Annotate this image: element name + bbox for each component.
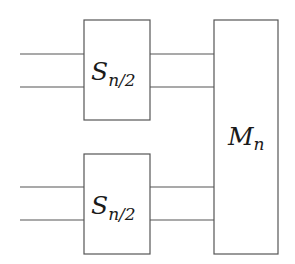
recursive-sorting-network-diagram: Sn/2 Sn/2 Mn bbox=[0, 0, 295, 264]
merger-block: Mn bbox=[214, 20, 278, 254]
sorter-block-bottom: Sn/2 bbox=[84, 154, 150, 254]
sorter-block-top: Sn/2 bbox=[84, 20, 150, 120]
